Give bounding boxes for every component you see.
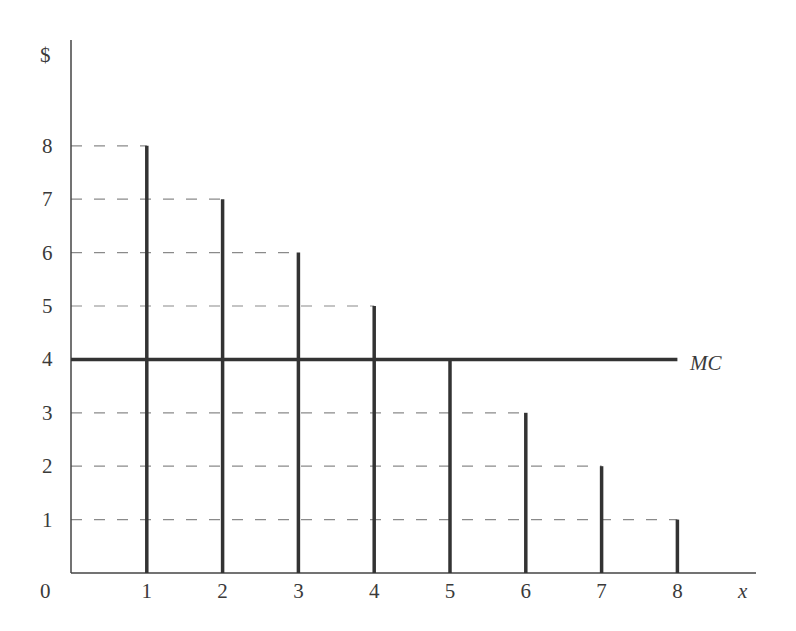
y-tick-label: 3 bbox=[42, 401, 53, 425]
origin-label: 0 bbox=[40, 579, 51, 603]
x-tick-label: 5 bbox=[445, 579, 456, 603]
x-tick-label: 3 bbox=[293, 579, 304, 603]
y-tick-label: 5 bbox=[42, 294, 53, 318]
x-tick-labels: 12345678 bbox=[142, 579, 683, 603]
y-tick-labels: 12345678 bbox=[42, 134, 53, 532]
mc-annotation: MC bbox=[689, 351, 722, 375]
y-tick-label: 2 bbox=[42, 454, 53, 478]
y-tick-label: 7 bbox=[42, 187, 53, 211]
x-tick-label: 7 bbox=[596, 579, 607, 603]
x-axis-label: x bbox=[737, 579, 748, 603]
x-tick-label: 4 bbox=[369, 579, 380, 603]
x-tick-label: 2 bbox=[217, 579, 228, 603]
x-tick-label: 8 bbox=[672, 579, 683, 603]
y-tick-label: 6 bbox=[42, 241, 53, 265]
x-tick-label: 6 bbox=[521, 579, 532, 603]
x-tick-label: 1 bbox=[142, 579, 153, 603]
y-tick-label: 1 bbox=[42, 508, 53, 532]
chart-canvas: 12345678 12345678 $ x 0 MC bbox=[0, 0, 796, 631]
y-tick-label: 8 bbox=[42, 134, 53, 158]
y-tick-label: 4 bbox=[42, 347, 53, 371]
y-axis-label: $ bbox=[40, 43, 51, 67]
